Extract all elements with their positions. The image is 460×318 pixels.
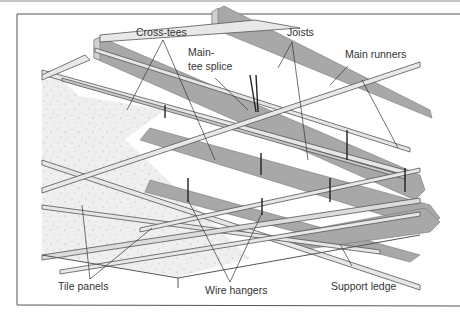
ceiling-diagram: Cross-tees Main- tee splice Joists Main …: [0, 0, 460, 318]
label-joists: Joists: [287, 26, 314, 38]
label-tile-panels: Tile panels: [58, 280, 108, 292]
label-main-tee-splice-1: Main-: [188, 46, 214, 58]
label-wire-hangers: Wire hangers: [205, 284, 267, 296]
label-main-runners: Main runners: [345, 48, 406, 60]
label-main-tee-splice-2: tee splice: [188, 60, 232, 72]
label-cross-tees: Cross-tees: [136, 26, 187, 38]
label-support-ledge: Support ledge: [331, 280, 396, 292]
